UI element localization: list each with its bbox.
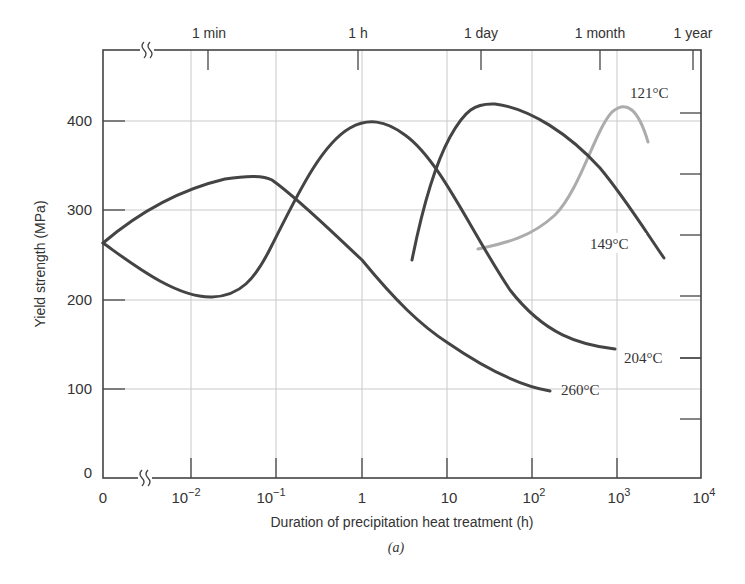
x-tick-1e4: 104 [693,486,716,506]
top-tick-1year: 1 year [674,25,713,41]
x-tick-labels: 0 10−2 10−1 1 10 102 103 104 [99,486,716,506]
y-tick-0: 0 [84,464,92,481]
y-tick-300: 300 [67,201,92,218]
figure-caption: (a) [388,540,405,556]
x-tick-1e-2: 10−2 [171,486,200,506]
series-labels: 121°C 149°C 204°C 260°C [561,82,701,398]
x-tick-1e2: 102 [523,486,546,506]
curve-204c [103,122,615,349]
x-tick-1: 1 [358,489,366,506]
top-tick-1day: 1 day [464,25,498,41]
x-axis-ticks [191,458,617,478]
axis-break-top-icon [140,42,154,58]
chart-canvas: 400 300 200 100 0 0 10−2 10−1 1 10 102 1… [0,0,745,584]
x-tick-10: 10 [441,489,458,506]
x-tick-0: 0 [99,489,107,506]
top-tick-1h: 1 h [348,25,367,41]
x-tick-1e-1: 10−1 [256,486,285,506]
x-tick-1e3: 103 [608,486,631,506]
vertical-gridlines [191,50,617,478]
y-axis-title: Yield strength (MPa) [32,200,48,327]
y-tick-labels: 400 300 200 100 0 [67,112,92,481]
axis-break-bottom-icon [138,470,152,486]
curve-260c [103,176,550,391]
top-tick-1month: 1 month [575,25,626,41]
label-149c: 149°C [590,236,629,252]
right-axis-ticks [680,113,701,419]
y-tick-200: 200 [67,291,92,308]
top-tick-1min: 1 min [192,25,226,41]
y-tick-400: 400 [67,112,92,129]
x-axis-title: Duration of precipitation heat treatment… [270,514,533,530]
y-tick-100: 100 [67,380,92,397]
curve-121c [478,107,648,249]
top-axis-ticks [208,50,693,70]
label-204c: 204°C [624,350,663,366]
top-time-labels: 1 min 1 h 1 day 1 month 1 year [192,25,713,41]
label-121c: 121°C [630,85,669,101]
label-260c: 260°C [561,382,600,398]
